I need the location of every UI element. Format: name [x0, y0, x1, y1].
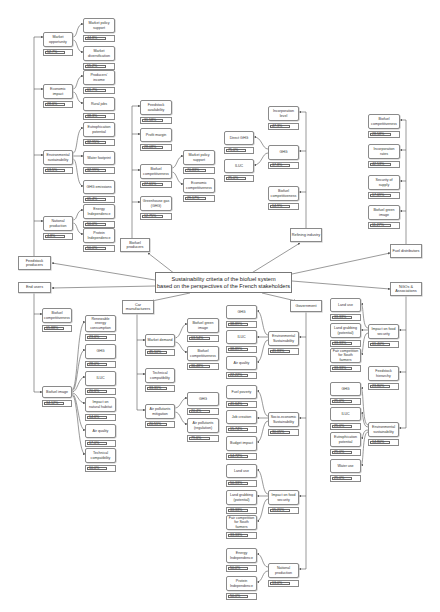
criterion-weight: 17.0%	[85, 440, 116, 447]
criterion-weight: 17.69%	[368, 192, 400, 199]
criterion-label: Biofuel green image	[187, 318, 219, 333]
criterion-incorp_level: Incorporation level47.3%	[268, 106, 299, 130]
criterion-ghg_eu: GHG28.0%	[85, 344, 116, 368]
criterion-weight: 32.95%	[83, 139, 115, 146]
weight-value: 33.33%	[332, 367, 352, 370]
criterion-weight: 50.0%	[226, 565, 257, 572]
criterion-weight: 38.3%	[83, 113, 115, 120]
criterion-econ_comp: Economic competitiveness29.17%	[183, 178, 215, 202]
criterion-food_ngo: Impact on food security61.40%	[368, 324, 399, 348]
criterion-weight: 25.0%	[330, 398, 361, 405]
stakeholder-diagram: Sustainability criteria of the biofuel s…	[0, 0, 440, 612]
criterion-weight: 79.6%	[187, 435, 219, 442]
criterion-weight: 55.2%	[83, 63, 115, 70]
criterion-weight: 28.0%	[85, 361, 116, 368]
weight-value: 13.5%	[45, 169, 65, 172]
criterion-label: Fair competition for South farmers	[226, 515, 257, 530]
weight-value: 41.83%	[270, 350, 290, 353]
criterion-ghg_gov: GHG38.89%	[226, 305, 257, 328]
criterion-label: Biofuel competitiveness	[42, 308, 72, 323]
criterion-label: Feedstock availability	[140, 100, 172, 115]
criterion-water_ngo: Water use25.0%	[330, 459, 361, 482]
criterion-weight: 45.10%	[145, 349, 175, 356]
criterion-label: Direct GHG	[224, 131, 254, 145]
weight-value: 17.69%	[370, 194, 391, 197]
criterion-fair_gov: Fair competition for South farmers33.33%	[226, 515, 257, 539]
criterion-weight: 41.64%	[226, 401, 257, 408]
criterion-label: GHG	[268, 145, 299, 160]
weight-value: 52.7%	[45, 51, 65, 54]
criterion-land_gov: Land use50.33%	[226, 464, 257, 487]
criterion-rural: Rural jobs38.3%	[83, 97, 115, 120]
criterion-label: GHG emissions	[83, 180, 115, 194]
criterion-bf_comp_fd: Biofuel competitiveness28.58%	[368, 114, 400, 138]
weight-value: 28.6%	[45, 103, 65, 106]
weight-value: 14.9%	[270, 205, 290, 208]
weight-value: 22.22%	[228, 374, 248, 377]
weight-value: 31.58%	[142, 119, 163, 122]
criterion-feed_avail: Feedstock availability31.58%	[140, 100, 172, 124]
criterion-eutro: Eutrophication potential32.95%	[83, 122, 115, 146]
weight-value: 44.8%	[85, 37, 106, 40]
title-line-1: Sustainability criteria of the biofuel s…	[171, 276, 275, 283]
weight-value: 32.95%	[85, 141, 106, 144]
criterion-weight: 52.7%	[43, 49, 73, 56]
criterion-protein_gov: Protein Independence50.0%	[226, 576, 257, 600]
criterion-label: Market diversification	[83, 46, 115, 61]
criterion-label: Biofuel competitiveness	[268, 186, 299, 201]
criterion-label: National production	[43, 216, 73, 231]
weight-value: 14.72%	[228, 455, 248, 458]
weight-value: 50.33%	[228, 482, 248, 485]
criterion-direct_ghg: Direct GHG75.0%	[224, 131, 254, 154]
criterion-tech_eu: Technical compatibility10.0%	[85, 448, 116, 472]
criterion-weight: 33.31%	[145, 385, 175, 392]
weight-value: 15.74%	[228, 428, 248, 431]
criterion-label: Incorporation level	[268, 106, 299, 121]
weight-value: 33.33%	[228, 534, 248, 537]
criterion-label: National production	[268, 563, 299, 578]
criterion-weight: 50.0%	[226, 593, 257, 600]
weight-value: 70.83%	[185, 169, 206, 172]
criterion-label: Market policy support	[183, 150, 215, 165]
criterion-label: Energy Independence	[83, 204, 115, 219]
weight-value: 65.88%	[44, 327, 64, 330]
criterion-energy_ind: Energy Independence50.0%	[83, 204, 115, 228]
criterion-weight: 13.0%	[268, 580, 299, 587]
criterion-security: Security of supply17.69%	[368, 175, 400, 199]
criterion-fair_ngo: Fair competition for South farmers33.33%	[330, 348, 361, 372]
weight-value: 30.05%	[270, 431, 290, 434]
criterion-job: Job creation15.74%	[226, 410, 257, 433]
criterion-green_fd: Biofuel green image11.27%	[368, 205, 400, 229]
criterion-weight: 33.33%	[330, 340, 361, 347]
criterion-weight: 34.12%	[42, 400, 72, 407]
weight-value: 61.7%	[85, 89, 106, 92]
weight-value: 25.0%	[226, 177, 246, 180]
weight-value: 25.0%	[332, 451, 352, 454]
criterion-label: GHG	[187, 392, 219, 406]
criterion-weight: 11.27%	[368, 222, 400, 229]
criterion-weight: 42.53%	[368, 161, 400, 168]
criterion-budget: Budget impact14.72%	[226, 436, 257, 460]
criterion-label: Economic competitiveness	[183, 178, 215, 193]
stakeholder-ngos: NGOs & Associations	[390, 282, 422, 296]
criterion-airq_eu: Air quality17.0%	[85, 424, 116, 447]
criterion-mkt_pol2: Market policy support70.83%	[183, 150, 215, 174]
weight-value: 65.4%	[85, 198, 106, 201]
criterion-food_gov: Impact on food security15.21%	[268, 490, 299, 514]
criterion-weight: 14.9%	[268, 203, 299, 210]
stakeholder-government: Government	[290, 300, 322, 312]
criterion-label: Biofuel green image	[368, 205, 400, 220]
criterion-renew: Renewable energy consumption23.6%	[85, 315, 116, 341]
criterion-fuel_pov: Fuel poverty41.64%	[226, 385, 257, 408]
criterion-bf_comp_ref: Biofuel competitiveness14.9%	[268, 186, 299, 210]
criterion-label: Biofuel competitiveness	[187, 346, 219, 361]
criterion-weight: 33.33%	[330, 314, 361, 321]
criterion-label: Impact on natural habitat	[85, 397, 116, 412]
criterion-label: Technical compatibility	[85, 448, 116, 463]
criterion-label: Eutrophication potential	[330, 432, 361, 447]
weight-value: 50.0%	[228, 595, 248, 598]
weight-value: 23.6%	[87, 336, 107, 339]
criterion-label: Air quality	[226, 356, 257, 370]
criterion-label: Air pollutants (regulation)	[187, 418, 219, 433]
stakeholder-carmanu: Car manufacturers	[122, 300, 154, 314]
